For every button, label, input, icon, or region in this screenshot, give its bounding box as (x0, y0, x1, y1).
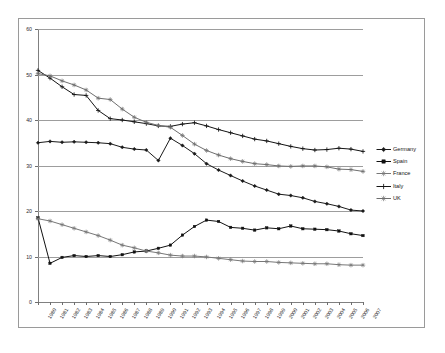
y-axis-tick-mark (35, 211, 38, 212)
x-axis-tick-mark (62, 302, 63, 305)
y-axis-tick-label: 40 (16, 117, 32, 123)
x-axis-tick-mark (182, 302, 183, 305)
gridline (38, 166, 363, 167)
y-axis-tick-label: 20 (16, 208, 32, 214)
x-axis-tick-mark (267, 302, 268, 305)
legend-item-label: France (393, 169, 410, 178)
legend-marker-star-icon (376, 194, 392, 203)
x-axis-tick-mark (50, 302, 51, 305)
x-axis-tick-mark (327, 302, 328, 305)
chart-outer-frame (18, 18, 425, 328)
legend-item-france[interactable]: France (376, 168, 438, 180)
y-axis-tick-mark (35, 29, 38, 30)
x-axis-tick-mark (351, 302, 352, 305)
legend-item-label: UK (393, 194, 401, 203)
y-axis-tick-label: 30 (16, 163, 32, 169)
y-axis-tick-label: 10 (16, 254, 32, 260)
x-axis-tick-mark (291, 302, 292, 305)
legend-item-label: Spain (393, 157, 407, 166)
gridline (38, 257, 363, 258)
x-axis-tick-mark (38, 302, 39, 305)
x-axis-tick-mark (158, 302, 159, 305)
legend-marker-diamond-icon (376, 145, 392, 154)
legend-marker-star-icon (376, 169, 392, 178)
x-axis-tick-mark (134, 302, 135, 305)
x-axis-tick-mark (194, 302, 195, 305)
gridline (38, 29, 363, 30)
gridline (38, 75, 363, 76)
x-axis-tick-mark (255, 302, 256, 305)
gridline (38, 120, 363, 121)
legend-item-germany[interactable]: Germany (376, 143, 438, 155)
legend-item-italy[interactable]: Italy (376, 180, 438, 192)
x-axis-tick-mark (170, 302, 171, 305)
gridline (38, 211, 363, 212)
legend-item-label: Germany (393, 145, 416, 154)
y-axis-tick-mark (35, 257, 38, 258)
x-axis-tick-mark (146, 302, 147, 305)
x-axis-tick-mark (86, 302, 87, 305)
y-axis-tick-label: 50 (16, 72, 32, 78)
x-axis-tick-mark (243, 302, 244, 305)
x-axis-tick-mark (207, 302, 208, 305)
chart-legend: GermanySpainFranceItalyUK (376, 143, 438, 205)
y-axis-tick-label: 0 (16, 299, 32, 305)
legend-item-label: Italy (393, 182, 403, 191)
y-axis-tick-mark (35, 75, 38, 76)
x-axis-tick-mark (219, 302, 220, 305)
x-axis-tick-mark (363, 302, 364, 305)
x-axis-tick-mark (98, 302, 99, 305)
chart-screenshot: 0102030405060 19801981198219831984198519… (0, 0, 445, 353)
x-axis-tick-mark (315, 302, 316, 305)
x-axis-tick-mark (110, 302, 111, 305)
x-axis-tick-mark (303, 302, 304, 305)
legend-marker-square-icon (376, 157, 392, 166)
x-axis-tick-mark (74, 302, 75, 305)
x-axis-tick-mark (231, 302, 232, 305)
legend-marker-plus-icon (376, 182, 392, 191)
x-axis-tick-mark (279, 302, 280, 305)
legend-item-uk[interactable]: UK (376, 193, 438, 205)
x-axis-tick-mark (339, 302, 340, 305)
y-axis-tick-mark (35, 120, 38, 121)
y-axis-tick-label: 60 (16, 26, 32, 32)
x-axis-tick-mark (122, 302, 123, 305)
y-axis-tick-mark (35, 166, 38, 167)
legend-item-spain[interactable]: Spain (376, 155, 438, 167)
